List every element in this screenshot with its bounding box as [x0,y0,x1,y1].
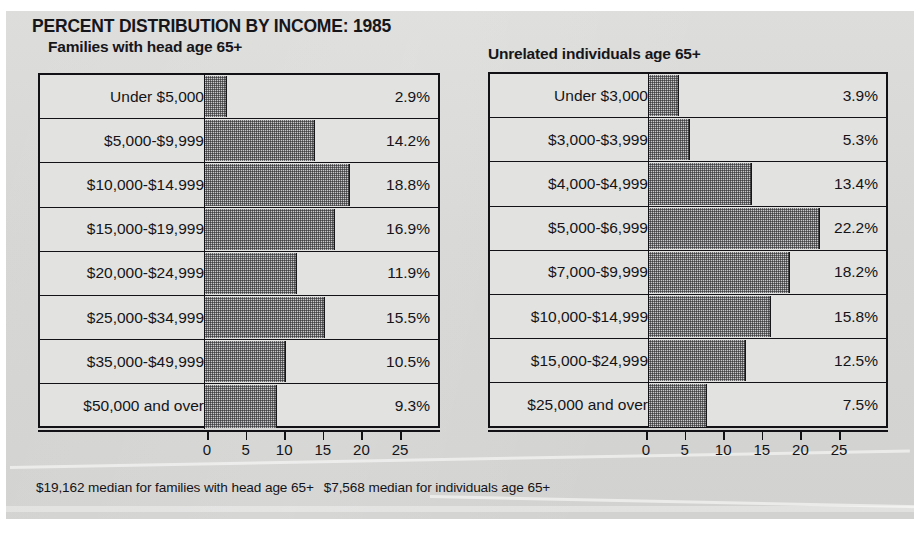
bar-segment [204,120,315,161]
axis-tick-label: 0 [203,441,211,458]
value-label: 7.5% [816,383,878,427]
category-label: $20,000-$24,999 [40,252,206,295]
axis-tick [207,430,209,440]
axis-tick [361,430,363,440]
chart-row: $7,000-$9,99918.2% [490,251,886,295]
value-label: 2.9% [368,75,430,118]
value-label: 22.2% [816,207,878,250]
chart-row: $3,000-$3,9995.3% [490,118,886,162]
category-label: $15,000-$19,999 [40,208,206,251]
chart-row: $25,000-$34,99915.5% [40,296,438,340]
value-label: 9.3% [368,384,430,428]
value-label: 14.2% [368,119,430,162]
value-label: 15.5% [368,296,430,339]
axis-tick [400,430,402,440]
axis-tick [284,430,286,440]
axis-tick [723,430,725,440]
chart-row: $20,000-$24,99911.9% [40,252,438,296]
bar-segment [204,253,297,294]
category-label: $25,000-$34,999 [40,296,206,339]
axis-tick-label: 25 [831,441,848,458]
bar-segment [648,75,679,116]
axis-tick-label: 25 [392,441,409,458]
bar-segment [204,76,227,117]
value-label: 3.9% [816,74,878,117]
category-label: $5,000-$9,999 [40,119,206,162]
bar-segment [648,296,771,337]
category-label: $15,000-$24,999 [490,339,650,382]
chart-row: $15,000-$19,99916.9% [40,208,438,252]
chart-panel-individuals: Under $3,0003.9%$3,000-$3,9995.3%$4,000-… [488,72,888,428]
value-label: 18.2% [816,251,878,294]
bar-segment [204,164,350,205]
panel-subtitle-left: Families with head age 65+ [48,38,242,56]
value-label: 15.8% [816,295,878,338]
axis-tick-label: 15 [753,441,770,458]
category-label: Under $3,000 [490,74,650,117]
bar-segment [648,384,707,426]
axis-tick [323,430,325,440]
axis-tick [800,430,802,440]
bar-segment [204,385,277,427]
chart-title: PERCENT DISTRIBUTION BY INCOME: 1985 [32,16,391,37]
value-label: 18.8% [368,163,430,206]
category-label: $35,000-$49,999 [40,340,206,383]
chart-row: $10,000-$14,99915.8% [490,295,886,339]
axis-tick-label: 5 [680,441,688,458]
bar-segment [204,297,325,338]
axis-tick-label: 0 [642,441,650,458]
axis-tick-label: 15 [314,441,331,458]
axis-line [488,430,888,432]
category-label: $10,000-$14.999 [40,163,206,206]
bar-segment [648,340,746,381]
caption-individuals: $7,568 median for individuals age 65+ [324,480,550,495]
chart-row: $10,000-$14.99918.8% [40,163,438,207]
panel-subtitle-right: Unrelated individuals age 65+ [488,45,701,63]
category-label: $7,000-$9,999 [490,251,650,294]
axis-tick-label: 20 [353,441,370,458]
chart-row: $15,000-$24,99912.5% [490,339,886,383]
category-label: $10,000-$14,999 [490,295,650,338]
chart-row: $50,000 and over9.3% [40,384,438,428]
chart-panel-families: Under $5,0002.9%$5,000-$9,99914.2%$10,00… [38,73,440,428]
axis-tick [685,430,687,440]
value-label: 11.9% [368,252,430,295]
axis-tick-label: 20 [792,441,809,458]
bar-segment [648,252,790,293]
x-axis-left: 0510152025 [38,430,440,466]
category-label: $4,000-$4,999 [490,162,650,205]
axis-tick [762,430,764,440]
axis-tick [246,430,248,440]
axis-tick-label: 10 [276,441,293,458]
caption-families: $19,162 median for families with head ag… [36,480,314,495]
chart-row: $5,000-$9,99914.2% [40,119,438,163]
value-label: 13.4% [816,162,878,205]
category-label: $50,000 and over [40,384,206,428]
value-label: 10.5% [368,340,430,383]
axis-tick [839,430,841,440]
axis-tick [646,430,648,440]
chart-row: $35,000-$49,99910.5% [40,340,438,384]
chart-caption: $19,162 median for families with head ag… [36,480,560,495]
chart-row: $4,000-$4,99913.4% [490,162,886,206]
x-axis-right: 0510152025 [488,430,888,466]
chart-page: PERCENT DISTRIBUTION BY INCOME: 1985 Fam… [0,0,920,543]
chart-row: Under $3,0003.9% [490,74,886,118]
axis-tick-label: 10 [715,441,732,458]
category-label: $5,000-$6,999 [490,207,650,250]
bar-segment [204,341,286,382]
chart-row: $5,000-$6,99922.2% [490,207,886,251]
category-label: Under $5,000 [40,75,206,118]
chart-row: Under $5,0002.9% [40,75,438,119]
category-label: $3,000-$3,999 [490,118,650,161]
bar-segment [204,209,335,250]
axis-line [38,430,440,432]
bar-segment [648,163,752,204]
value-label: 5.3% [816,118,878,161]
value-label: 12.5% [816,339,878,382]
chart-row: $25,000 and over7.5% [490,383,886,427]
bar-segment [648,119,690,160]
bar-segment [648,208,820,249]
axis-tick-label: 5 [241,441,249,458]
category-label: $25,000 and over [490,383,650,427]
